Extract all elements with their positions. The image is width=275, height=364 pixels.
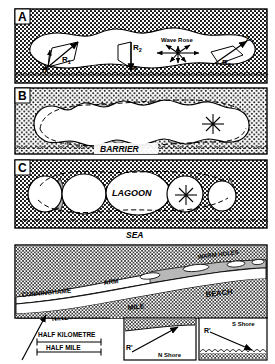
- inset-n-shore-vector-label: R': [126, 344, 133, 351]
- panel-b: BARRIER B: [15, 88, 268, 154]
- panel-a-letter: A: [18, 10, 27, 24]
- inset-s-shore-vector-label: R': [204, 327, 211, 334]
- panel-a-r3-sub: 3: [228, 62, 231, 68]
- inset-s-shore-label: S Shore: [232, 321, 255, 327]
- panel-a-y-label: Y: [133, 66, 138, 73]
- panel-a-z-label: Z: [246, 35, 250, 42]
- inset-n-shore-label: N Shore: [158, 352, 182, 358]
- figure-root: A R1 X R2 Y Wave Rose: [0, 0, 275, 364]
- figure-svg: A R1 X R2 Y Wave Rose: [0, 0, 275, 364]
- panel-a: A R1 X R2 Y Wave Rose: [15, 9, 268, 83]
- inset-n-shore: R' N Shore: [124, 318, 196, 360]
- panel-a-r1-sub: 1: [68, 59, 71, 65]
- panel-d-map: WARM HOLES CUNNINGHAME ARM BEACH MILE NI…: [15, 245, 267, 322]
- panel-c-sea-label: SEA: [126, 230, 143, 240]
- wave-rose-label: Wave Rose: [161, 37, 193, 43]
- panel-a-r2-sub: 2: [139, 47, 142, 53]
- panel-c-letter: C: [18, 161, 27, 175]
- panel-b-letter: B: [18, 89, 27, 103]
- scale-metric-label: HALF KILOMETRE: [38, 331, 96, 338]
- panel-c-lagoon-label: LAGOON: [112, 188, 152, 198]
- panel-a-x-label: X: [44, 67, 49, 74]
- scale-imperial-label: HALF MILE: [46, 344, 81, 351]
- inset-s-shore: R' S Shore: [199, 318, 267, 360]
- panel-b-barrier-label: BARRIER: [100, 144, 140, 154]
- panel-c: LAGOON SEA C: [15, 160, 268, 240]
